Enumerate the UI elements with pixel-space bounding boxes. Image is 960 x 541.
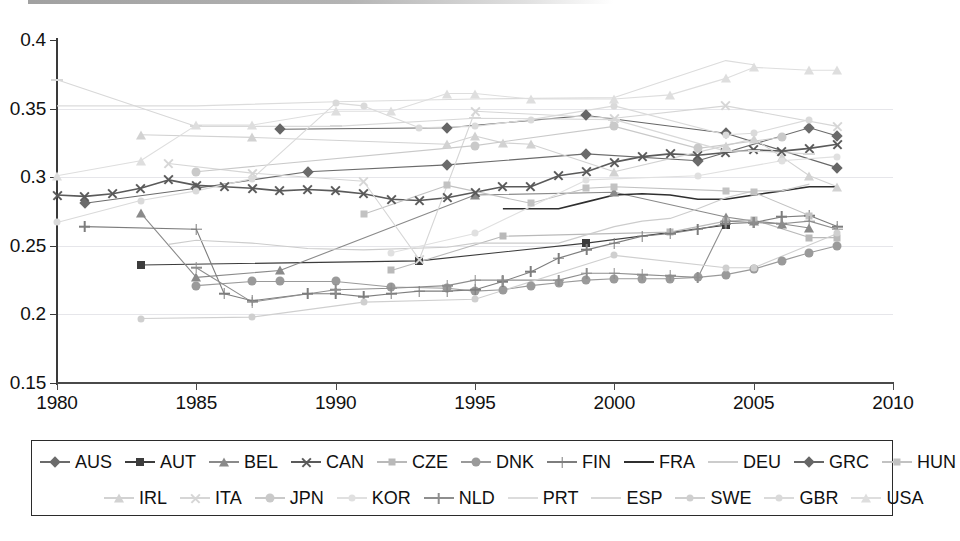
- legend-item-dnk[interactable]: DNK: [461, 453, 534, 471]
- data-point-kor: [694, 172, 701, 179]
- legend-marker-cze-icon: [377, 455, 407, 469]
- legend-marker-dnk-icon: [461, 455, 491, 469]
- legend-label-nld: NLD: [459, 489, 495, 507]
- data-point-usa: [386, 107, 396, 116]
- series-line-esp: [57, 80, 809, 154]
- data-point-swe: [249, 314, 256, 321]
- y-axis-tick-label: 0.2: [0, 304, 46, 323]
- data-point-jpn: [471, 141, 480, 150]
- data-point-kor: [778, 157, 785, 164]
- legend-marker-esp-icon: [591, 491, 621, 505]
- data-point-swe: [611, 252, 618, 259]
- data-point-fin: [414, 286, 425, 297]
- legend-item-aut[interactable]: AUT: [125, 453, 196, 471]
- data-point-gbr: [249, 175, 256, 182]
- legend-label-aus: AUS: [75, 453, 112, 471]
- legend-item-fra[interactable]: FRA: [624, 453, 695, 471]
- legend-item-kor[interactable]: KOR: [337, 489, 411, 507]
- legend-marker-fra-icon: [624, 455, 654, 469]
- legend-label-hun: HUN: [917, 453, 956, 471]
- data-point-can: [135, 183, 146, 194]
- legend-item-bel[interactable]: BEL: [209, 453, 278, 471]
- data-point-esp: [720, 150, 732, 152]
- legend-marker-deu-icon: [708, 455, 738, 469]
- data-point-kor: [834, 153, 841, 160]
- legend-item-esp[interactable]: ESP: [591, 489, 662, 507]
- data-point-gbr: [416, 124, 423, 131]
- data-point-nld: [776, 218, 787, 229]
- legend-label-usa: USA: [886, 489, 923, 507]
- legend-item-ita[interactable]: ITA: [180, 489, 242, 507]
- legend-item-can[interactable]: CAN: [291, 453, 364, 471]
- chart-legend: AUSAUTBELCANCZEDNKFINFRADEUGRCHUN IRLITA…: [31, 440, 893, 516]
- x-axis-tick: [614, 383, 615, 390]
- data-point-irl: [609, 167, 619, 176]
- legend-item-deu[interactable]: DEU: [708, 453, 781, 471]
- data-point-gbr: [360, 102, 367, 109]
- legend-item-usa[interactable]: USA: [851, 489, 923, 507]
- legend-item-irl[interactable]: IRL: [104, 489, 167, 507]
- data-point-fin: [609, 238, 620, 249]
- data-point-bel: [136, 208, 146, 217]
- data-point-jpn: [192, 167, 201, 176]
- legend-label-swe: SWE: [710, 489, 751, 507]
- data-point-ita: [832, 121, 843, 132]
- legend-row-1: AUSAUTBELCANCZEDNKFINFRADEUGRCHUN: [32, 447, 900, 477]
- data-point-can: [386, 194, 397, 205]
- data-point-irl: [442, 140, 452, 149]
- data-point-ita: [720, 100, 731, 111]
- data-point-nld: [386, 283, 397, 294]
- legend-item-swe[interactable]: SWE: [675, 489, 751, 507]
- legend-item-fin[interactable]: FIN: [547, 453, 611, 471]
- data-point-hun: [611, 183, 618, 190]
- data-point-can: [163, 174, 174, 185]
- legend-marker-jpn-icon: [255, 491, 285, 505]
- data-point-jpn: [610, 122, 619, 131]
- legend-label-cze: CZE: [412, 453, 448, 471]
- data-point-esp: [803, 153, 815, 155]
- legend-item-grc[interactable]: GRC: [794, 453, 869, 471]
- data-point-esp: [748, 150, 760, 152]
- legend-marker-aus-icon: [40, 455, 70, 469]
- legend-label-prt: PRT: [543, 489, 579, 507]
- legend-item-prt[interactable]: PRT: [508, 489, 579, 507]
- data-point-swe: [750, 264, 757, 271]
- data-point-fin: [553, 253, 564, 264]
- data-point-dnk: [526, 281, 535, 290]
- data-point-irl: [498, 138, 508, 147]
- data-point-usa: [136, 156, 146, 165]
- legend-marker-fin-icon: [547, 455, 577, 469]
- series-line-prt: [57, 61, 754, 106]
- legend-item-aus[interactable]: AUS: [40, 453, 112, 471]
- data-point-irl: [136, 130, 146, 139]
- data-point-gbr: [137, 197, 144, 204]
- data-point-gbr: [722, 131, 729, 138]
- data-point-nld: [330, 284, 341, 295]
- data-point-hun: [750, 189, 757, 196]
- legend-item-gbr[interactable]: GBR: [764, 489, 838, 507]
- data-point-can: [358, 188, 369, 199]
- data-point-hun: [722, 187, 729, 194]
- legend-item-cze[interactable]: CZE: [377, 453, 448, 471]
- legend-item-nld[interactable]: NLD: [424, 489, 495, 507]
- legend-label-fra: FRA: [659, 453, 695, 471]
- legend-marker-bel-icon: [209, 455, 239, 469]
- y-axis-tick-label: 0.25: [0, 236, 46, 255]
- x-axis-tick: [57, 383, 58, 390]
- data-point-fin: [302, 288, 313, 299]
- data-point-fin: [191, 224, 202, 235]
- legend-marker-ita-icon: [180, 491, 210, 505]
- data-point-gbr: [750, 130, 757, 137]
- data-point-can: [414, 195, 425, 206]
- data-point-hun: [527, 200, 534, 207]
- x-axis-tick: [893, 383, 894, 390]
- legend-marker-nld-icon: [424, 491, 454, 505]
- x-axis-tick-label: 1985: [161, 392, 231, 414]
- data-point-gbr: [332, 100, 339, 107]
- legend-item-jpn[interactable]: JPN: [255, 489, 324, 507]
- legend-label-fin: FIN: [582, 453, 611, 471]
- data-point-esp: [330, 125, 342, 127]
- legend-item-hun[interactable]: HUN: [882, 453, 956, 471]
- data-point-kor: [388, 249, 395, 256]
- data-point-nld: [665, 270, 676, 281]
